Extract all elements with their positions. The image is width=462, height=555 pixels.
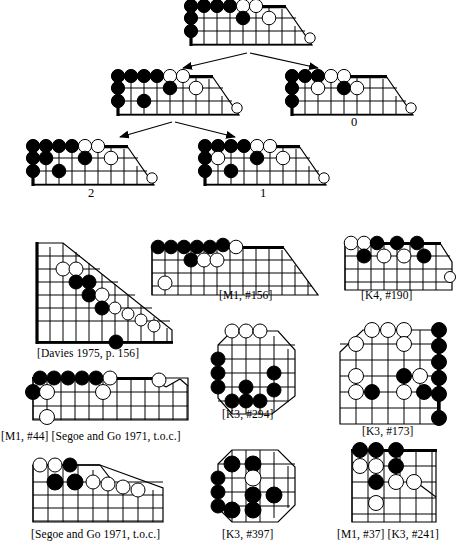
caption-k3-294: [K3, #294] xyxy=(222,408,273,420)
caption-k3-397: [K3, #397] xyxy=(222,528,273,540)
caption-k3-173: [K3, #173] xyxy=(362,425,413,437)
tree-arrow-child-right xyxy=(175,122,235,137)
position-m1-156 xyxy=(151,238,318,295)
caption-k4-190: [K4, #190] xyxy=(361,289,412,301)
value-label-two: 2 xyxy=(88,186,94,201)
tree-arrow-root-left xyxy=(183,53,247,68)
root-position xyxy=(184,0,315,46)
caption-segoe: [Segoe and Go 1971, t.o.c.] xyxy=(31,528,160,540)
right-child-position xyxy=(285,69,416,116)
position-k3-397 xyxy=(211,450,295,522)
left-child-position xyxy=(111,69,242,116)
caption-m1-156: [M1, #156] xyxy=(219,289,272,301)
left-grandchild-position xyxy=(26,139,157,186)
position-m1-37 xyxy=(351,443,437,523)
caption-davies: [Davies 1975, p. 156] xyxy=(37,347,139,359)
caption-m1-44: [M1, #44] [Segoe and Go 1971, t.o.c.] xyxy=(1,430,181,442)
position-k3-294 xyxy=(211,324,295,414)
position-k4-190 xyxy=(344,236,456,290)
position-k3-173 xyxy=(340,323,447,426)
tree-arrow-child-left xyxy=(120,122,172,137)
position-m1-44 xyxy=(26,371,189,425)
tree-arrow-root-right xyxy=(250,53,318,68)
position-segoe xyxy=(33,458,163,522)
value-label-zero: 0 xyxy=(351,115,357,130)
right-grandchild-position xyxy=(198,139,329,186)
figure-canvas xyxy=(0,0,462,555)
caption-m1-37: [M1, #37] [K3, #241] xyxy=(337,528,439,540)
value-label-one: 1 xyxy=(260,186,266,201)
go-game-tree-figure: 0 2 1 [Davies 1975, p. 156] [M1, #156] [… xyxy=(0,0,462,555)
